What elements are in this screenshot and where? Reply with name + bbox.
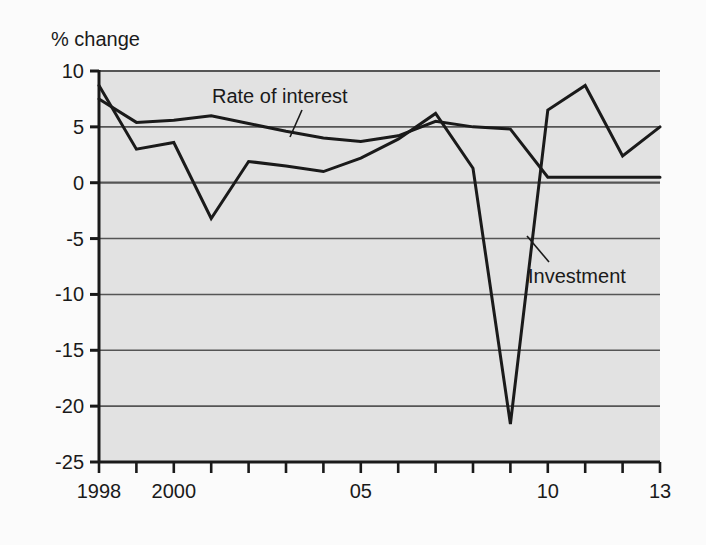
x-tick-label: 13: [649, 480, 671, 502]
y-tick-label: 10: [62, 60, 84, 82]
annotation-label: Investment: [528, 265, 626, 287]
y-tick-label: -5: [66, 228, 84, 250]
x-tick-label: 1998: [77, 480, 122, 502]
annotation-label: Rate of interest: [212, 85, 348, 107]
y-axis-title: % change: [51, 28, 140, 50]
y-tick-label: -15: [55, 339, 84, 361]
y-tick-label: 5: [73, 116, 84, 138]
chart-figure: 1050-5-10-15-20-25 19982000051013 Rate o…: [0, 0, 706, 545]
y-tick-label: 0: [73, 172, 84, 194]
x-tick-label: 05: [350, 480, 372, 502]
line-chart: 1050-5-10-15-20-25 19982000051013 Rate o…: [0, 0, 706, 545]
x-tick-label: 2000: [152, 480, 197, 502]
y-tick-label: -10: [55, 283, 84, 305]
x-tick-label: 10: [537, 480, 559, 502]
y-tick-label: -20: [55, 395, 84, 417]
y-tick-label: -25: [55, 451, 84, 473]
